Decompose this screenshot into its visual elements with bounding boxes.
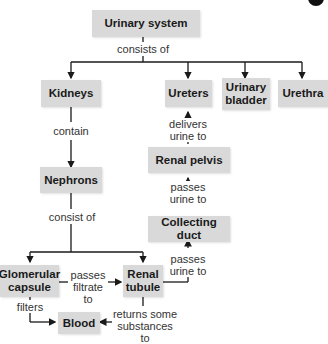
- edge-label-contain: contain: [48, 125, 94, 137]
- node-glomerular-capsule: Glomerular capsule: [0, 265, 59, 297]
- node-renal-tubule: Renal tubule: [123, 265, 163, 297]
- edge-label-passes-filtrate-to: passes filtrate to: [68, 269, 108, 305]
- node-ureters: Ureters: [165, 80, 212, 107]
- node-kidneys: Kidneys: [41, 80, 101, 107]
- edge-label-filters: filters: [14, 301, 46, 313]
- node-urinary-system: Urinary system: [92, 10, 200, 37]
- edge-label-delivers-urine-to: delivers urine to: [163, 118, 213, 142]
- edge-label-passes-urine-to-2: passes urine to: [165, 253, 211, 277]
- node-renal-pelvis: Renal pelvis: [148, 147, 230, 173]
- edge-label-consist-of: consist of: [45, 211, 99, 223]
- node-urethra: Urethra: [278, 80, 328, 107]
- node-nephrons: Nephrons: [40, 167, 102, 193]
- edge-label-passes-urine-to-1: passes urine to: [165, 181, 211, 205]
- edge-label-consists-of: consists of: [110, 43, 176, 55]
- node-urinary-bladder: Urinary bladder: [222, 78, 270, 110]
- edge-label-returns-some-substances-to: returns some substances to: [112, 308, 178, 344]
- node-blood: Blood: [58, 312, 100, 334]
- node-collecting-duct: Collecting duct: [148, 216, 230, 242]
